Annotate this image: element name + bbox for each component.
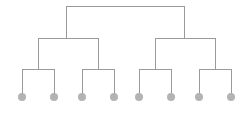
tree-node-leaf-5[interactable] xyxy=(135,93,143,101)
tree-diagram-canvas xyxy=(0,0,245,114)
tree-node-leaf-4[interactable] xyxy=(110,93,118,101)
tree-node-leaf-2[interactable] xyxy=(50,93,58,101)
tree-leaf-nodes-group xyxy=(18,93,235,101)
tree-node-leaf-8[interactable] xyxy=(227,93,235,101)
tree-node-leaf-6[interactable] xyxy=(167,93,175,101)
tree-diagram-svg xyxy=(0,0,245,114)
tree-node-leaf-3[interactable] xyxy=(78,93,86,101)
tree-node-leaf-7[interactable] xyxy=(195,93,203,101)
tree-node-leaf-1[interactable] xyxy=(18,93,26,101)
tree-edges-group xyxy=(22,6,231,97)
